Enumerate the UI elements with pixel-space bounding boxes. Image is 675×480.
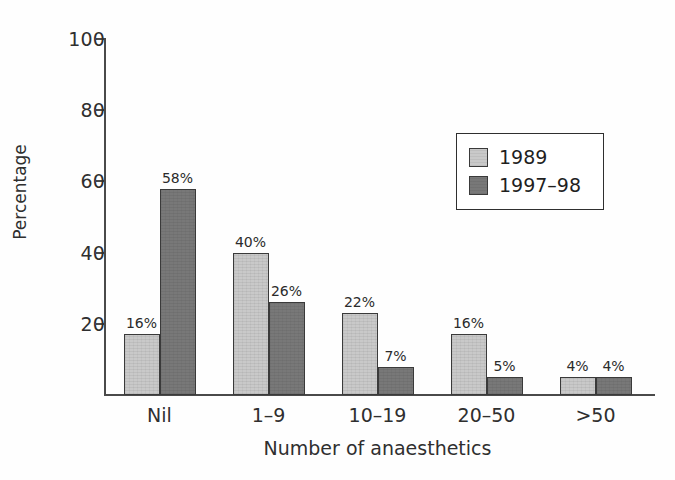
y-tick-label: 20 bbox=[61, 315, 105, 334]
bar-group: 40%26%1–9 bbox=[214, 0, 323, 396]
bar-value-label: 22% bbox=[344, 295, 375, 309]
bar[interactable] bbox=[487, 377, 523, 395]
bar-column: 7% bbox=[378, 0, 414, 395]
bar-value-label: 58% bbox=[162, 171, 193, 185]
legend-swatch-icon-1989 bbox=[469, 148, 488, 167]
bar-group: 22%7%10–19 bbox=[323, 0, 432, 396]
legend-label-1997-98: 1997–98 bbox=[499, 176, 581, 195]
bar[interactable] bbox=[124, 334, 160, 395]
y-tick-label: 40 bbox=[61, 244, 105, 263]
bar-value-label: 4% bbox=[602, 359, 624, 373]
x-axis-title: Number of anaesthetics bbox=[105, 437, 650, 459]
bar-value-label: 7% bbox=[384, 349, 406, 363]
bar-column: 40% bbox=[233, 0, 269, 395]
y-tick-label: 60 bbox=[61, 172, 105, 191]
x-category-label: >50 bbox=[541, 404, 650, 426]
bar-group-bars: 40%26% bbox=[214, 0, 323, 395]
bar-value-label: 40% bbox=[235, 235, 266, 249]
x-category-label: 1–9 bbox=[214, 404, 323, 426]
bar-chart-figure: Percentage 20406080100 16%58%Nil40%26%1–… bbox=[0, 0, 675, 480]
y-axis-title: Percentage bbox=[10, 112, 30, 272]
x-category-label: Nil bbox=[105, 404, 214, 426]
bar[interactable] bbox=[560, 377, 596, 395]
bar[interactable] bbox=[596, 377, 632, 395]
bar-group: 16%58%Nil bbox=[105, 0, 214, 396]
bar-value-label: 4% bbox=[566, 359, 588, 373]
bar-value-label: 16% bbox=[126, 316, 157, 330]
bar-column: 16% bbox=[124, 0, 160, 395]
bar[interactable] bbox=[233, 253, 269, 395]
y-tick-label: 80 bbox=[61, 101, 105, 120]
legend-entry-1989: 1989 bbox=[469, 143, 593, 171]
legend-swatch-icon-1997-98 bbox=[469, 176, 488, 195]
bar-value-label: 5% bbox=[493, 359, 515, 373]
bar-column: 26% bbox=[269, 0, 305, 395]
legend-label-1989: 1989 bbox=[499, 148, 547, 167]
legend-entry-1997-98: 1997–98 bbox=[469, 171, 593, 199]
bar-column: 22% bbox=[342, 0, 378, 395]
bar[interactable] bbox=[269, 302, 305, 395]
bar-value-label: 16% bbox=[453, 316, 484, 330]
bar-value-label: 26% bbox=[271, 284, 302, 298]
bar[interactable] bbox=[378, 367, 414, 395]
bar[interactable] bbox=[451, 334, 487, 395]
bar-group-bars: 16%58% bbox=[105, 0, 214, 395]
x-category-label: 10–19 bbox=[323, 404, 432, 426]
bar[interactable] bbox=[160, 189, 196, 395]
x-category-label: 20–50 bbox=[432, 404, 541, 426]
legend: 1989 1997–98 bbox=[456, 133, 604, 210]
bar[interactable] bbox=[342, 313, 378, 395]
y-tick-label: 100 bbox=[61, 30, 105, 49]
bar-column: 58% bbox=[160, 0, 196, 395]
bar-group-bars: 22%7% bbox=[323, 0, 432, 395]
